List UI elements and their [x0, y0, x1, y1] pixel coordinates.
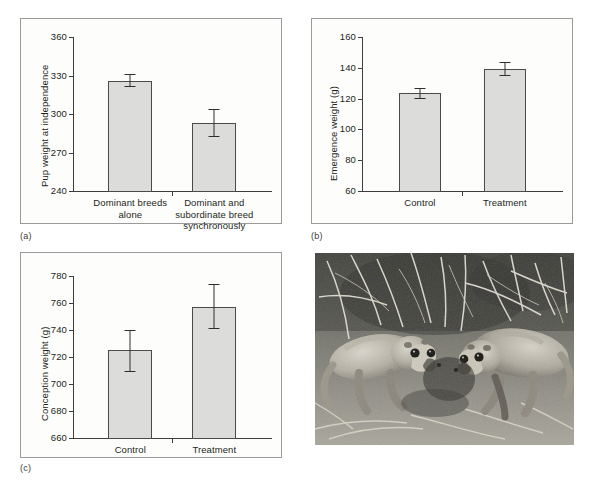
figure-root: Pup weight at independence24027030033036…	[0, 0, 593, 485]
error-bar-cap-top	[414, 88, 425, 89]
error-bar	[412, 88, 428, 99]
y-axis-tick-label: 780	[33, 271, 67, 281]
chart-panel-a: Pup weight at independence24027030033036…	[20, 18, 282, 224]
error-bar	[122, 330, 138, 372]
y-axis-tick-label: 660	[33, 433, 67, 443]
plot-area-b: Emergence weight (g)6080100120140160Cont…	[312, 19, 572, 223]
y-axis-tick-label: 680	[33, 406, 67, 416]
error-bar	[206, 284, 222, 329]
error-bar-cap-bottom	[499, 75, 510, 76]
y-axis-line	[362, 37, 363, 192]
y-axis-line	[73, 276, 74, 439]
error-bar-cap-top	[499, 62, 510, 63]
y-axis-tick-label: 120	[322, 94, 356, 104]
error-bar-cap-bottom	[414, 98, 425, 99]
error-bar-stem	[130, 330, 131, 372]
x-axis-separator-tick	[172, 439, 173, 443]
y-axis-tick-label: 700	[33, 379, 67, 389]
bar	[399, 93, 441, 192]
panel-label-a: (a)	[20, 231, 32, 241]
y-axis-tick-label: 270	[33, 148, 67, 158]
chart-panel-b: Emergence weight (g)6080100120140160Cont…	[311, 18, 573, 224]
y-axis-tick-label: 80	[322, 155, 356, 165]
error-bar-stem	[504, 62, 505, 77]
y-axis-label: Pup weight at independence	[39, 64, 50, 187]
plot-area-c: Conception weight (g)6606807007207407607…	[21, 253, 281, 457]
error-bar	[206, 109, 222, 137]
error-bar	[122, 74, 138, 87]
panel-label-b: (b)	[311, 231, 323, 241]
bar	[484, 69, 526, 192]
error-bar-cap-bottom	[209, 136, 220, 137]
chart-panel-c: Conception weight (g)6606807007207407607…	[20, 252, 282, 458]
plot-area-a: Pup weight at independence24027030033036…	[21, 19, 281, 223]
y-axis-tick-label: 740	[33, 325, 67, 335]
error-bar-cap-top	[125, 74, 136, 75]
y-axis-tick-label: 760	[33, 298, 67, 308]
y-axis-tick-label: 100	[322, 124, 356, 134]
error-bar-cap-top	[209, 284, 220, 285]
y-axis-tick-label: 360	[33, 32, 67, 42]
photo-panel-d	[307, 250, 582, 458]
y-axis-tick-label: 330	[33, 71, 67, 81]
error-bar-cap-top	[209, 109, 220, 110]
x-axis-separator-tick	[172, 192, 173, 196]
error-bar-stem	[214, 109, 215, 137]
x-axis-category-label: Treatment	[159, 444, 269, 456]
error-bar-cap-bottom	[209, 328, 220, 329]
error-bar-cap-bottom	[125, 86, 136, 87]
error-bar-cap-top	[125, 330, 136, 331]
error-bar-stem	[214, 284, 215, 329]
x-axis-category-label: Dominant andsubordinate breedsynchronous…	[159, 197, 269, 232]
meerkat-photograph	[315, 253, 574, 445]
y-axis-tick-label: 60	[322, 186, 356, 196]
y-axis-tick-label: 240	[33, 186, 67, 196]
bar	[108, 81, 152, 192]
x-axis-category-label: Treatment	[450, 197, 560, 209]
x-axis-separator-tick	[462, 192, 463, 196]
y-axis-tick-label: 160	[322, 32, 356, 42]
error-bar-cap-bottom	[125, 371, 136, 372]
y-axis-tick-label: 720	[33, 352, 67, 362]
y-axis-tick-label: 300	[33, 109, 67, 119]
panel-label-c: (c)	[20, 463, 31, 473]
y-axis-line	[73, 37, 74, 192]
error-bar	[497, 62, 513, 77]
y-axis-tick-label: 140	[322, 63, 356, 73]
